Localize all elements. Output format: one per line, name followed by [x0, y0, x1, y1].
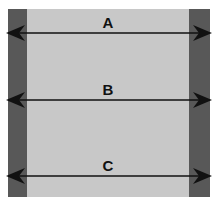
dimension-diagram: A B C [0, 0, 217, 206]
dimension-a-label: A [103, 14, 114, 31]
dimension-c-label: C [103, 157, 114, 174]
diagram-canvas: A B C [0, 0, 217, 206]
dimension-b-label: B [103, 81, 114, 98]
